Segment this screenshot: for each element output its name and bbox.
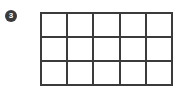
grid-cell bbox=[42, 38, 66, 60]
filled-circle-number-badge-icon: 3 bbox=[5, 10, 17, 22]
grid-cell bbox=[147, 38, 171, 60]
grid-cell bbox=[121, 14, 145, 36]
grid-cell bbox=[121, 62, 145, 84]
figure-container: 3 bbox=[0, 0, 189, 95]
grid-cell bbox=[147, 62, 171, 84]
grid-cell bbox=[68, 62, 92, 84]
grid-cell bbox=[68, 38, 92, 60]
grid-cell bbox=[42, 14, 66, 36]
grid-cell bbox=[68, 14, 92, 36]
grid-cell bbox=[147, 14, 171, 36]
grid-cell bbox=[94, 14, 118, 36]
grid-cell bbox=[94, 38, 118, 60]
grid bbox=[40, 12, 173, 86]
step-badge-number: 3 bbox=[9, 12, 13, 20]
grid-cell bbox=[94, 62, 118, 84]
grid-cell bbox=[42, 62, 66, 84]
grid-cell bbox=[121, 38, 145, 60]
